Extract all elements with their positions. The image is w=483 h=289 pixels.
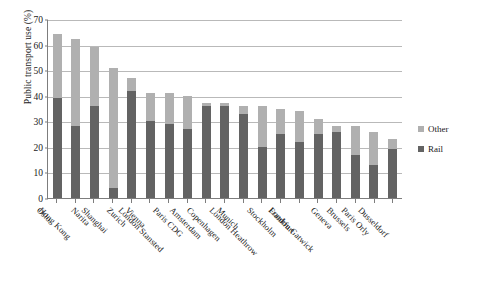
stacked-bar[interactable] bbox=[332, 126, 341, 198]
bar-slot bbox=[123, 20, 142, 198]
bar-segment-other bbox=[146, 93, 155, 121]
stacked-bar[interactable] bbox=[53, 34, 62, 198]
bar-slot bbox=[383, 20, 402, 198]
bar-segment-rail bbox=[369, 165, 378, 198]
bar-segment-other bbox=[183, 96, 192, 129]
legend-item[interactable]: Rail bbox=[418, 144, 449, 154]
bar-segment-rail bbox=[388, 149, 397, 198]
stacked-bar[interactable] bbox=[258, 106, 267, 198]
bar-segment-rail bbox=[314, 134, 323, 198]
bar-slot bbox=[178, 20, 197, 198]
stacked-bar[interactable] bbox=[109, 68, 118, 198]
bar-slot bbox=[197, 20, 216, 198]
stacked-bar[interactable] bbox=[295, 111, 304, 198]
bar-segment-rail bbox=[258, 147, 267, 198]
bar-segment-rail bbox=[109, 188, 118, 198]
bar-slot bbox=[234, 20, 253, 198]
bar-segment-other bbox=[127, 78, 136, 91]
bar-segment-other bbox=[295, 111, 304, 142]
bar-segment-other bbox=[314, 119, 323, 134]
plot-area: 010203040506070 bbox=[47, 20, 402, 199]
bar-segment-other bbox=[239, 106, 248, 114]
chart-container: Public transport use (%) 010203040506070… bbox=[0, 0, 483, 289]
stacked-bar[interactable] bbox=[369, 132, 378, 198]
legend-swatch bbox=[418, 146, 424, 152]
bar-slot bbox=[346, 20, 365, 198]
legend-label: Other bbox=[428, 124, 449, 134]
bar-segment-rail bbox=[127, 91, 136, 198]
stacked-bar[interactable] bbox=[388, 139, 397, 198]
bar-slot bbox=[160, 20, 179, 198]
bar-segment-other bbox=[90, 47, 99, 106]
bar-segment-rail bbox=[202, 106, 211, 198]
bar-segment-other bbox=[258, 106, 267, 147]
bar-slot bbox=[141, 20, 160, 198]
y-axis-title: Public transport use (%) bbox=[23, 0, 33, 147]
bar-slot bbox=[327, 20, 346, 198]
stacked-bar[interactable] bbox=[220, 103, 229, 198]
stacked-bar[interactable] bbox=[165, 93, 174, 198]
bar-slot bbox=[290, 20, 309, 198]
bar-series-group bbox=[48, 20, 402, 198]
bar-segment-rail bbox=[276, 134, 285, 198]
x-axis-labels: OsloHong KongNaritaShanghaiZurichViennaL… bbox=[47, 203, 402, 289]
bar-segment-other bbox=[71, 39, 80, 126]
bar-segment-other bbox=[165, 93, 174, 124]
stacked-bar[interactable] bbox=[127, 78, 136, 198]
bar-segment-rail bbox=[332, 132, 341, 198]
bar-segment-other bbox=[276, 109, 285, 135]
bar-slot bbox=[253, 20, 272, 198]
bar-segment-rail bbox=[165, 124, 174, 198]
bar-segment-rail bbox=[295, 142, 304, 198]
stacked-bar[interactable] bbox=[314, 119, 323, 198]
stacked-bar[interactable] bbox=[239, 106, 248, 198]
bar-slot bbox=[272, 20, 291, 198]
bar-segment-rail bbox=[351, 155, 360, 198]
bar-slot bbox=[365, 20, 384, 198]
legend-label: Rail bbox=[428, 144, 443, 154]
bar-segment-other bbox=[53, 34, 62, 98]
bar-segment-rail bbox=[53, 98, 62, 198]
stacked-bar[interactable] bbox=[351, 126, 360, 198]
bar-segment-rail bbox=[183, 129, 192, 198]
stacked-bar[interactable] bbox=[276, 109, 285, 198]
bar-segment-rail bbox=[71, 126, 80, 198]
bar-slot bbox=[48, 20, 67, 198]
bar-segment-rail bbox=[90, 106, 99, 198]
stacked-bar[interactable] bbox=[183, 96, 192, 198]
bar-slot bbox=[85, 20, 104, 198]
bar-slot bbox=[104, 20, 123, 198]
bar-segment-other bbox=[388, 139, 397, 149]
chart-legend: OtherRail bbox=[418, 124, 449, 164]
bar-slot bbox=[67, 20, 86, 198]
stacked-bar[interactable] bbox=[202, 103, 211, 198]
x-axis-label-slot: Dusseldorf bbox=[383, 203, 402, 289]
bar-slot bbox=[309, 20, 328, 198]
legend-item[interactable]: Other bbox=[418, 124, 449, 134]
bar-segment-other bbox=[109, 68, 118, 188]
bar-segment-other bbox=[369, 132, 378, 165]
bar-segment-other bbox=[351, 126, 360, 154]
bar-slot bbox=[216, 20, 235, 198]
bar-segment-rail bbox=[220, 106, 229, 198]
stacked-bar[interactable] bbox=[71, 39, 80, 198]
bar-segment-rail bbox=[146, 121, 155, 198]
bar-segment-rail bbox=[239, 114, 248, 198]
stacked-bar[interactable] bbox=[90, 47, 99, 198]
stacked-bar[interactable] bbox=[146, 93, 155, 198]
legend-swatch bbox=[418, 126, 424, 132]
